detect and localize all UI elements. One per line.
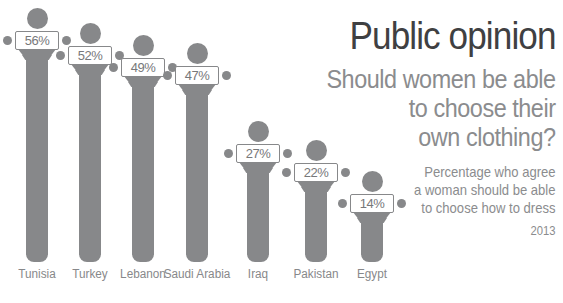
person-shoulders [22, 55, 52, 60]
bar-column [132, 87, 154, 262]
person-head-icon [27, 8, 48, 29]
infographic-canvas: 56%Tunisia52%Turkey49%Lebanon47%Saudi Ar… [0, 0, 563, 303]
value-label: 22% [304, 165, 329, 180]
chart-subtitle-line: to choose their [327, 94, 556, 123]
value-sign: 27% [236, 144, 280, 163]
value-sign-wrap: 27% [236, 144, 280, 163]
value-label: 49% [131, 60, 156, 75]
person-hand-left-icon [224, 149, 233, 158]
person-hand-left-icon [56, 51, 65, 60]
chart-subtitle-line: Should women be able [327, 65, 556, 94]
chart-note-line: to choose how to dress [327, 199, 556, 217]
value-sign-wrap: 47% [175, 66, 219, 85]
person-hand-right-icon [222, 71, 231, 80]
person-head-icon [306, 140, 327, 161]
chart-title: Public opinion [327, 14, 556, 58]
person-hand-left-icon [3, 36, 12, 45]
person-shoulders [182, 90, 212, 95]
value-label: 56% [25, 33, 50, 48]
value-sign: 47% [175, 66, 219, 85]
person-head-icon [80, 23, 101, 44]
value-label: 27% [246, 146, 271, 161]
person-hand-left-icon [109, 63, 118, 72]
chart-note-line: Percentage who agree [327, 163, 556, 181]
person-head-icon [248, 121, 269, 142]
person-shoulders [75, 70, 105, 75]
bar-column [247, 173, 269, 262]
bar-column [26, 60, 48, 262]
category-label: Egypt [330, 267, 415, 281]
header: Public opinion Should women be able to c… [327, 14, 556, 238]
chart-subtitle: Should women be able to choose their own… [327, 65, 556, 152]
chart-note: Percentage who agree a woman should be a… [327, 163, 556, 217]
person-shoulders [243, 168, 273, 173]
person-shoulders [239, 163, 277, 168]
person-shoulders [178, 85, 216, 90]
bar-column [305, 192, 327, 262]
value-label: 52% [78, 48, 103, 63]
chart-note-line: a woman should be able [327, 181, 556, 199]
person-shoulders [128, 82, 158, 87]
person-hand-left-icon [282, 168, 291, 177]
bar-column [79, 75, 101, 262]
chart-year: 2013 [327, 224, 556, 238]
person-head-icon [133, 35, 154, 56]
chart-subtitle-line: own clothing? [327, 123, 556, 152]
person-hand-left-icon [163, 71, 172, 80]
bar-column [186, 95, 208, 262]
person-head-icon [187, 43, 208, 64]
value-label: 47% [185, 68, 210, 83]
